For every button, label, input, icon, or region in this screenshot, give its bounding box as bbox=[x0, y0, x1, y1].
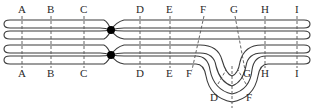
label-bottom-i: I bbox=[295, 67, 299, 79]
label-top-i: I bbox=[295, 3, 299, 15]
label-top-b: B bbox=[47, 3, 54, 15]
label-top-f: F bbox=[200, 3, 206, 15]
label-bottom-g: G bbox=[243, 67, 251, 79]
label-top-a: A bbox=[18, 3, 26, 15]
top-labels: A B C D E F G H I bbox=[18, 3, 299, 15]
label-top-h: H bbox=[261, 3, 269, 15]
label-bottom-c: C bbox=[80, 67, 87, 79]
label-loop-d: D bbox=[210, 91, 218, 103]
locus-lines bbox=[22, 16, 297, 108]
loop-labels: D F bbox=[210, 91, 252, 103]
upper-chromosome bbox=[4, 20, 310, 39]
label-bottom-e: E bbox=[166, 67, 173, 79]
label-bottom-h: H bbox=[261, 67, 269, 79]
label-bottom-a: A bbox=[18, 67, 26, 79]
label-loop-f: F bbox=[246, 91, 252, 103]
label-bottom-b: B bbox=[47, 67, 54, 79]
bottom-labels: A B C D E F G H I bbox=[18, 67, 299, 79]
label-top-g: G bbox=[230, 3, 238, 15]
label-bottom-f: F bbox=[186, 67, 192, 79]
label-top-d: D bbox=[136, 3, 144, 15]
centromere-upper bbox=[107, 26, 115, 34]
inversion-loop-diagram: A B C D E F G H I A B C D E F G H I D F bbox=[0, 0, 318, 108]
label-top-c: C bbox=[80, 3, 87, 15]
label-bottom-d: D bbox=[136, 67, 144, 79]
label-top-e: E bbox=[166, 3, 173, 15]
centromere-lower bbox=[107, 51, 115, 59]
